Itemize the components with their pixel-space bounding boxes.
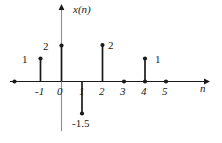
stem-n-4 (143, 56, 147, 83)
figure-canvas: x(n) n -1 0 1 2 3 4 5 1 2 -1.5 2 1 (0, 0, 222, 143)
x-tick-label-3: 3 (120, 86, 126, 97)
x-tick-label-4: 4 (141, 86, 147, 97)
y-axis-label: x(n) (73, 4, 91, 15)
sample-baseline-marker (143, 79, 147, 83)
value-label-n-0: 2 (43, 41, 49, 52)
sample-marker (143, 56, 147, 60)
x-tick-label-0: 0 (57, 86, 63, 97)
stem-n-minus2 (12, 79, 16, 83)
x-tick-label-minus1: -1 (35, 86, 44, 97)
x-tick-label-2: 2 (99, 86, 105, 97)
stem-n-0 (59, 43, 63, 81)
value-label-n-minus1: 1 (22, 54, 28, 65)
y-axis-arrow-icon (59, 4, 65, 10)
x-tick-label-5: 5 (162, 86, 168, 97)
x-tick-label-1: 1 (79, 86, 85, 97)
value-label-n-2: 2 (108, 40, 114, 51)
sample-marker (80, 111, 84, 115)
x-axis-label: n (200, 83, 206, 94)
sample-marker (12, 79, 16, 83)
sample-marker (164, 79, 168, 83)
stem-n-2 (100, 43, 104, 82)
value-label-n-1: -1.5 (72, 118, 89, 129)
sample-marker (100, 43, 104, 47)
sample-marker (59, 43, 63, 47)
stem-n-3 (122, 79, 126, 83)
sample-marker (38, 56, 42, 60)
value-label-n-4: 1 (155, 54, 161, 65)
sample-marker (122, 79, 126, 83)
stem-plot-svg (0, 0, 222, 143)
stem-n-minus1 (38, 56, 42, 81)
stem-n-5 (164, 79, 168, 83)
